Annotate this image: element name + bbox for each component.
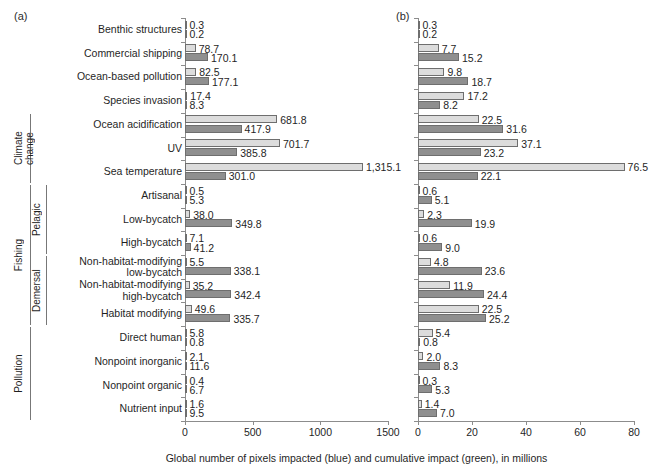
- bar: [418, 163, 625, 171]
- category-tick: [414, 113, 418, 114]
- category-tick: [414, 184, 418, 185]
- category-tick: [181, 89, 185, 90]
- bar: [185, 21, 187, 29]
- bar: [418, 258, 431, 266]
- group-bracket-label: Pelagic: [31, 185, 42, 254]
- category-tick: [181, 397, 185, 398]
- bar: [418, 400, 422, 408]
- bar: [185, 385, 187, 393]
- bar-value-label: 23.2: [484, 148, 504, 158]
- bar: [418, 30, 420, 38]
- bar: [185, 53, 208, 61]
- bar-value-label: 177.1: [212, 77, 238, 87]
- bar: [418, 267, 482, 275]
- category-tick: [414, 65, 418, 66]
- bar: [185, 163, 363, 171]
- bar-value-label: 681.8: [280, 115, 306, 125]
- bar: [418, 409, 437, 417]
- bar-value-label: 1,315.1: [366, 162, 401, 172]
- bar-value-label: 1.4: [425, 399, 440, 409]
- bar: [185, 329, 187, 337]
- bar-value-label: 22.5: [482, 115, 502, 125]
- value-axis-tick: [526, 421, 527, 425]
- category-tick: [414, 374, 418, 375]
- bar: [185, 400, 187, 408]
- bar-value-label: 8.2: [443, 100, 458, 110]
- bar-value-label: 0.2: [190, 29, 205, 39]
- bar-value-label: 25.2: [489, 314, 509, 324]
- bar-value-label: 170.1: [211, 53, 237, 63]
- bar: [185, 77, 209, 85]
- bar: [418, 101, 440, 109]
- bar-value-label: 8.3: [443, 361, 458, 371]
- panel-b-tag: (b): [396, 10, 409, 22]
- category-label: Nonpoint organic: [56, 380, 182, 392]
- bar-value-label: 0.6: [423, 233, 438, 243]
- value-axis-tick-label: 40: [496, 426, 556, 438]
- bar-value-label: 417.9: [245, 124, 271, 134]
- value-axis-tick: [472, 421, 473, 425]
- bar-value-label: 49.6: [195, 304, 215, 314]
- category-tick: [181, 208, 185, 209]
- bar: [418, 115, 479, 123]
- bar: [185, 281, 190, 289]
- group-bracket-label: Demersal: [31, 256, 42, 325]
- group-bracket-label: Climate change: [13, 114, 35, 183]
- bar-value-label: 5.3: [190, 195, 205, 205]
- bar: [185, 243, 191, 251]
- category-tick: [181, 113, 185, 114]
- bar: [418, 305, 479, 313]
- bar-value-label: 35.2: [193, 281, 213, 291]
- bar: [418, 362, 440, 370]
- category-tick: [414, 42, 418, 43]
- category-tick: [414, 160, 418, 161]
- value-axis-tick-label: 1000: [290, 426, 350, 438]
- bar: [418, 219, 472, 227]
- category-tick: [414, 208, 418, 209]
- bar: [185, 352, 187, 360]
- category-tick: [414, 279, 418, 280]
- category-tick: [181, 42, 185, 43]
- category-label: Non-habitat-modifying low-bycatch: [56, 256, 182, 279]
- value-axis-tick: [418, 421, 419, 425]
- category-tick: [414, 302, 418, 303]
- bar-value-label: 5.5: [190, 257, 205, 267]
- bar: [418, 243, 442, 251]
- bar-value-label: 0.2: [423, 29, 438, 39]
- bar: [418, 376, 420, 384]
- bar: [185, 362, 187, 370]
- category-tick: [181, 302, 185, 303]
- panel-a-tag: (a): [14, 10, 27, 22]
- panel-b-plot: 0204060800.30.27.715.29.818.717.28.222.5…: [418, 18, 634, 421]
- panel-a-plot: 0500100015000.30.278.7170.182.5177.117.4…: [185, 18, 388, 421]
- category-tick: [414, 326, 418, 327]
- bar-value-label: 0.8: [190, 337, 205, 347]
- bar: [418, 338, 420, 346]
- category-label: Low-bycatch: [56, 214, 182, 226]
- bar-value-label: 11.9: [453, 281, 473, 291]
- value-axis-tick: [634, 421, 635, 425]
- bar: [418, 77, 468, 85]
- bar: [418, 196, 432, 204]
- category-label: Direct human: [56, 332, 182, 344]
- bar: [418, 68, 444, 76]
- bar-value-label: 18.7: [471, 77, 491, 87]
- x-axis-caption-text: Global number of pixels impacted (blue) …: [108, 452, 548, 464]
- value-axis-tick: [388, 421, 389, 425]
- value-axis-line: [185, 421, 388, 422]
- bar: [185, 92, 187, 100]
- category-label: Non-habitat-modifying high-bycatch: [56, 279, 182, 302]
- bar: [185, 305, 192, 313]
- bar: [185, 219, 232, 227]
- bar-value-label: 7.0: [440, 408, 455, 418]
- bar: [185, 44, 196, 52]
- bar-value-label: 0.8: [423, 337, 438, 347]
- bar: [185, 376, 187, 384]
- bar: [185, 234, 187, 242]
- category-label: Sea temperature: [56, 166, 182, 178]
- bar: [185, 101, 187, 109]
- bar: [418, 139, 518, 147]
- value-axis-tick: [253, 421, 254, 425]
- category-tick: [414, 350, 418, 351]
- bar-value-label: 338.1: [234, 266, 260, 276]
